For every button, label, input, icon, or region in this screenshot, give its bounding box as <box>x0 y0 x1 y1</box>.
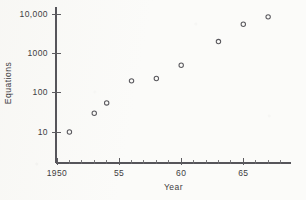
data-point-4 <box>154 76 158 80</box>
data-point-3 <box>129 79 133 83</box>
x-tick-label-1955: 55 <box>97 168 141 178</box>
axes <box>56 7 291 163</box>
data-point-5 <box>179 63 183 67</box>
y-axis-title: Equations <box>3 51 13 115</box>
figure-canvas: 10100100010,0001950556065 Equations Year <box>0 0 306 200</box>
x-axis-title: Year <box>134 182 214 192</box>
tick-marks <box>52 14 281 164</box>
x-tick-label-1965: 65 <box>221 168 265 178</box>
data-point-2 <box>104 101 108 105</box>
x-tick-label-1960: 60 <box>159 168 203 178</box>
y-tick-label-10: 10 <box>0 127 48 137</box>
data-point-8 <box>266 15 270 19</box>
data-point-0 <box>67 130 71 134</box>
data-point-1 <box>92 111 96 115</box>
data-point-7 <box>241 22 245 26</box>
y-tick-label-10000: 10,000 <box>0 9 48 19</box>
data-markers <box>67 15 270 135</box>
x-tick-label-1950: 1950 <box>35 168 79 178</box>
data-point-6 <box>216 39 220 43</box>
